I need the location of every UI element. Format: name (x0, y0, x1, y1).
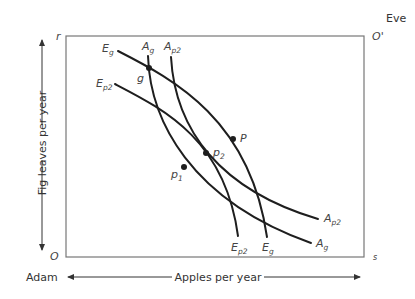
origin-eve-label: O' (372, 30, 384, 43)
curve-Ag (148, 56, 311, 243)
svg-text:Ap2: Ap2 (323, 212, 341, 227)
label-Ag-top: Ag (141, 40, 155, 55)
point-p2 (203, 150, 209, 156)
point-p2-label: p2 (212, 146, 225, 161)
eve-label: Eve (386, 12, 406, 25)
svg-text:Eg: Eg (262, 241, 274, 256)
point-p1 (181, 164, 187, 170)
corner-label-s: s (373, 253, 377, 262)
edgeworth-box-diagram: Fig leaves per year Apples per year Adam… (0, 0, 415, 299)
svg-text:Ap2: Ap2 (163, 40, 181, 55)
origin-adam-label: O (50, 250, 59, 263)
point-g-label: g (137, 72, 144, 85)
label-Ep2: Ep2 (96, 77, 113, 92)
point-p1-label: p1 (170, 168, 183, 183)
svg-text:Ag: Ag (315, 237, 329, 252)
svg-text:p2: p2 (212, 146, 225, 161)
label-Eg-bottom: Eg (262, 241, 274, 256)
svg-text:p1: p1 (170, 168, 183, 183)
label-Eg: Eg (102, 42, 114, 57)
svg-text:Ep2: Ep2 (96, 77, 113, 92)
y-axis-label: Fig leaves per year (36, 90, 49, 195)
label-Ag-right: Ag (315, 237, 329, 252)
point-P (230, 136, 236, 142)
point-P-label: P (240, 132, 247, 145)
adam-label: Adam (26, 271, 58, 284)
label-Ap2-top: Ap2 (163, 40, 181, 55)
x-axis-label: Apples per year (175, 271, 262, 284)
svg-text:Ep2: Ep2 (231, 241, 248, 256)
label-Ep2-bottom: Ep2 (231, 241, 248, 256)
label-Ap2-right: Ap2 (323, 212, 341, 227)
svg-text:Eg: Eg (102, 42, 114, 57)
point-g (146, 65, 152, 71)
corner-label-r: r (56, 30, 62, 43)
svg-text:Ag: Ag (141, 40, 155, 55)
